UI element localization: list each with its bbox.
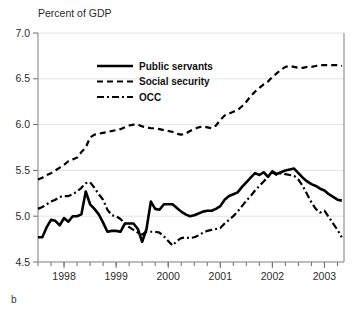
y-axis-title: Percent of GDP bbox=[38, 7, 112, 19]
chart-figure: Percent of GDP 4.55.05.56.06.57.0 199819… bbox=[0, 0, 359, 316]
legend-label-social-security: Social security bbox=[139, 76, 210, 87]
x-tick-label: 2000 bbox=[157, 270, 181, 282]
y-tick-label: 5.5 bbox=[15, 164, 30, 176]
y-tick-label: 6.0 bbox=[15, 118, 30, 130]
figure-background bbox=[0, 0, 359, 316]
legend-label-public-servants: Public servants bbox=[139, 61, 213, 72]
y-tick-label: 4.5 bbox=[15, 256, 30, 268]
y-tick-label: 5.0 bbox=[15, 210, 30, 222]
x-tick-label: 1999 bbox=[104, 270, 128, 282]
x-tick-label: 2001 bbox=[209, 270, 233, 282]
y-tick-label: 7.0 bbox=[15, 27, 30, 39]
y-tick-label: 6.5 bbox=[15, 72, 30, 84]
legend-label-occ: OCC bbox=[139, 92, 161, 103]
x-tick-label: 1998 bbox=[52, 270, 76, 282]
x-tick-label: 2002 bbox=[261, 270, 285, 282]
panel-label: b bbox=[11, 294, 17, 305]
x-tick-label: 2003 bbox=[313, 270, 337, 282]
